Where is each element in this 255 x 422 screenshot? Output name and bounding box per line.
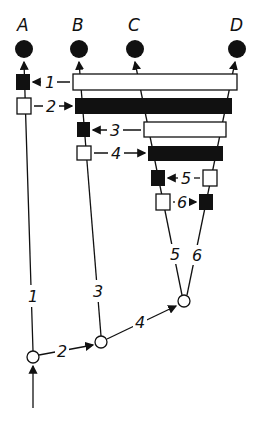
character-label-4: 4 [111, 144, 121, 163]
branch-label-5: 5 [170, 245, 180, 264]
character-label-5: 5 [181, 169, 191, 188]
taxon-node-b [70, 40, 88, 58]
branch-label-6: 6 [192, 246, 202, 265]
character-square-b-3 [77, 122, 90, 137]
cladogram-diagram: A B C D 1 2 3 [0, 0, 255, 422]
character-square-b-4 [77, 146, 91, 160]
taxon-node-c [126, 40, 144, 58]
internal-node-bcd [95, 336, 107, 348]
character-label-3: 3 [110, 121, 120, 140]
character-square-c-5 [151, 170, 165, 186]
character-bar-3 [144, 122, 226, 137]
taxon-label-d: D [230, 15, 243, 35]
character-bar-1 [73, 74, 237, 90]
taxon-label-c: C [128, 15, 140, 35]
character-square-c-6 [156, 194, 170, 210]
character-label-2: 2 [46, 97, 56, 116]
character-square-a-1 [16, 74, 30, 90]
internal-node-root [27, 351, 39, 363]
taxon-label-a: A [16, 15, 29, 35]
character-bar-2 [75, 98, 232, 114]
branch-label-3: 3 [93, 282, 103, 301]
character-square-a-2 [17, 98, 31, 114]
branch-label-4: 4 [135, 313, 145, 332]
taxon-node-a [15, 40, 33, 58]
taxon-label-b: B [72, 15, 84, 35]
character-bar-4 [148, 146, 223, 161]
character-square-d-6 [199, 194, 213, 210]
character-square-d-5 [203, 170, 217, 186]
taxon-node-d [228, 40, 246, 58]
internal-node-cd [178, 295, 190, 307]
branch-label-1: 1 [28, 287, 38, 306]
character-label-1: 1 [45, 73, 55, 92]
character-label-6: 6 [177, 193, 187, 212]
branch-label-2: 2 [57, 342, 67, 361]
